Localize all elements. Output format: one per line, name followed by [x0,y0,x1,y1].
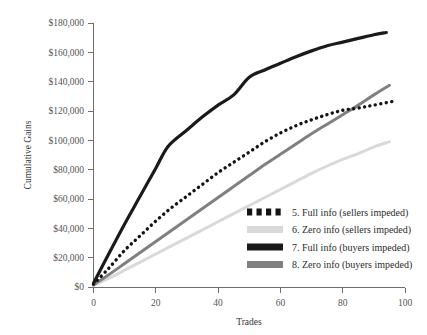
legend-swatch [247,226,283,233]
y-tick-label: $80,000 [53,165,84,175]
x-tick-label: 100 [398,298,413,308]
y-tick-label: $120,000 [48,106,84,116]
x-tick-label: 0 [91,298,96,308]
y-axis-title: Cumulative Gains [23,120,33,189]
x-tick-label: 40 [213,298,223,308]
legend-label: 6. Zero info (sellers impeded) [292,224,411,236]
x-axis-title: Trades [236,317,262,327]
chart-container: $0$20,000$40,000$60,000$80,000$100,000$1… [0,0,427,335]
y-tick-label: $160,000 [48,48,84,58]
legend-swatch [247,244,283,251]
y-tick-label: $180,000 [48,18,84,28]
x-tick-label: 80 [338,298,348,308]
y-tick-label: $60,000 [53,194,84,204]
y-tick-label: $40,000 [53,224,84,234]
y-tick-label: $0 [75,282,85,292]
legend-label: 7. Full info (buyers impeded) [292,242,409,254]
x-tick-label: 60 [276,298,286,308]
y-tick-label: $140,000 [48,77,84,87]
y-tick-label: $100,000 [48,136,84,146]
legend-label: 5. Full info (sellers impeded) [292,207,408,219]
legend-label: 8. Zero info (buyers impeded) [292,259,412,271]
y-tick-label: $20,000 [53,253,84,263]
legend-swatch [247,261,283,268]
cumulative-gains-line-chart: $0$20,000$40,000$60,000$80,000$100,000$1… [0,0,427,335]
x-tick-label: 20 [151,298,161,308]
